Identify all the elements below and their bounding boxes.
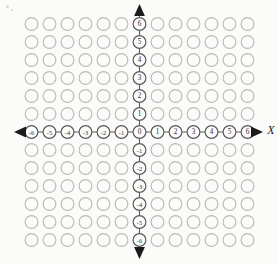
grid-circle <box>97 108 110 121</box>
x-axis-tick-label: -1 <box>119 129 124 136</box>
grid-circle <box>223 162 236 175</box>
grid-circle <box>169 18 182 31</box>
grid-circle <box>79 18 92 31</box>
grid-circle <box>115 234 128 247</box>
grid-circle <box>151 198 164 211</box>
grid-circle <box>43 108 56 121</box>
grid-circle <box>97 216 110 229</box>
grid-circle <box>43 144 56 157</box>
grid-circle <box>97 54 110 67</box>
grid-circle <box>97 144 110 157</box>
grid-circle <box>241 234 254 247</box>
grid-circle <box>169 180 182 193</box>
x-axis-left-arrow-icon <box>14 127 26 138</box>
grid-circle <box>97 234 110 247</box>
y-axis-tick-label: -3 <box>137 183 142 190</box>
grid-circle <box>97 36 110 49</box>
x-axis-tick-label: 2 <box>174 128 178 136</box>
grid-circle <box>61 162 74 175</box>
grid-circle <box>169 90 182 103</box>
grid-circle <box>187 198 200 211</box>
y-axis-tick-label: 4 <box>138 56 142 64</box>
grid-circle <box>115 180 128 193</box>
grid-circle <box>241 18 254 31</box>
grid-circle <box>115 54 128 67</box>
grid-circle <box>43 54 56 67</box>
grid-circle <box>97 198 110 211</box>
y-axis-tick-label: -2 <box>137 165 142 172</box>
x-axis-tick-label: 0 <box>138 128 142 136</box>
x-axis-tick-label: 4 <box>210 128 214 136</box>
grid-circle <box>115 90 128 103</box>
y-axis-tick-label: 6 <box>138 20 142 28</box>
grid-circle <box>241 144 254 157</box>
grid-circle <box>25 234 38 247</box>
grid-circle <box>187 108 200 121</box>
grid-circle <box>25 162 38 175</box>
grid-circle <box>205 234 218 247</box>
grid-circle <box>61 144 74 157</box>
grid-circle <box>25 198 38 211</box>
grid-circle <box>79 108 92 121</box>
grid-circle <box>25 180 38 193</box>
grid-circle <box>43 216 56 229</box>
grid-circle <box>241 198 254 211</box>
grid-circle <box>241 54 254 67</box>
grid-circle <box>187 18 200 31</box>
grid-circle <box>241 108 254 121</box>
grid-circle <box>61 180 74 193</box>
x-axis-tick-label: -6 <box>29 129 34 136</box>
grid-circle <box>187 144 200 157</box>
grid-circle <box>151 144 164 157</box>
grid-circle <box>169 54 182 67</box>
grid-circle <box>205 90 218 103</box>
grid-circle <box>223 18 236 31</box>
grid-circle <box>61 108 74 121</box>
grid-circle <box>151 36 164 49</box>
grid-circle <box>43 234 56 247</box>
grid-circle <box>205 180 218 193</box>
x-axis-name-label: X <box>266 123 275 137</box>
grid-circle <box>169 162 182 175</box>
grid-circle <box>205 72 218 85</box>
y-axis-down-arrow-icon <box>134 247 145 259</box>
grid-circle <box>223 108 236 121</box>
grid-circle <box>205 162 218 175</box>
grid-circle <box>205 198 218 211</box>
grid-circle <box>61 54 74 67</box>
grid-circle <box>223 180 236 193</box>
grid-circle <box>241 36 254 49</box>
x-axis-tick-label: -3 <box>83 129 88 136</box>
grid-circle <box>25 216 38 229</box>
grid-circle <box>115 198 128 211</box>
grid-circle <box>223 144 236 157</box>
grid-circle <box>187 180 200 193</box>
grid-circle <box>241 162 254 175</box>
x-axis-tick-label: -4 <box>65 129 71 136</box>
grid-circle <box>187 36 200 49</box>
grid-circle <box>241 72 254 85</box>
x-axis-tick-label: -2 <box>101 129 106 136</box>
y-axis-tick-label: 2 <box>138 92 142 100</box>
grid-circle <box>43 180 56 193</box>
grid-circle <box>205 216 218 229</box>
x-axis-tick-label: 1 <box>156 128 160 136</box>
grid-circle <box>187 72 200 85</box>
grid-circle <box>61 216 74 229</box>
coordinate-plane-diagram: -6-5-4-3-2-10123456654321-1-2-3-4-5-6 X <box>0 0 279 264</box>
grid-circle <box>223 36 236 49</box>
grid-circle <box>187 90 200 103</box>
grid-circle <box>61 234 74 247</box>
grid-circle <box>115 108 128 121</box>
grid-circle <box>151 90 164 103</box>
grid-circle <box>205 36 218 49</box>
grid-circle <box>61 72 74 85</box>
grid-circle <box>43 162 56 175</box>
y-axis-up-arrow-icon <box>134 4 145 16</box>
grid-circle <box>187 54 200 67</box>
grid-circle <box>43 18 56 31</box>
grid-circle <box>25 54 38 67</box>
y-axis-tick-label: 1 <box>138 110 142 118</box>
grid-circle <box>205 54 218 67</box>
x-axis-right-arrow-icon <box>251 127 263 138</box>
